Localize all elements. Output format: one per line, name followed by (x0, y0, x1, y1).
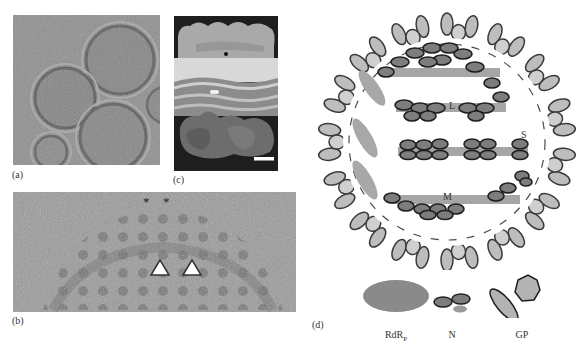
segment-label-l: L (449, 100, 455, 111)
asterisk-marker: * (143, 194, 150, 209)
legend-label-n: N (442, 329, 462, 340)
legend-label-rdrp: RdRP (376, 329, 416, 343)
panel-b-label: (b) (12, 315, 24, 326)
panel-a: (a) (13, 15, 160, 165)
asterisk-marker: * (163, 194, 170, 209)
virion-schematic: L S (310, 10, 583, 270)
legend-rdrp-main: RdR (385, 329, 403, 340)
segment-label-s: S (521, 129, 527, 140)
n-legend-shape (434, 294, 470, 313)
panel-a-micrograph (13, 15, 160, 165)
legend-rdrp-sub: P (403, 335, 407, 343)
panel-c: (c) (174, 16, 278, 171)
segment-label-m: M (443, 191, 452, 202)
legend-label-gp: GP (510, 329, 534, 340)
panel-d-label: (d) (312, 319, 324, 330)
panel-b-micrograph: * * (13, 192, 296, 312)
schematic-legend (310, 268, 583, 318)
panel-c-reconstruction (174, 16, 278, 171)
panel-c-label: (c) (173, 174, 184, 185)
scale-bar (254, 157, 274, 161)
gp-legend-shape (486, 275, 540, 318)
panel-d: L S (310, 10, 583, 339)
rdrp-legend-shape (363, 280, 429, 312)
panel-b: * * (b) (13, 192, 296, 312)
panel-a-label: (a) (12, 169, 23, 180)
